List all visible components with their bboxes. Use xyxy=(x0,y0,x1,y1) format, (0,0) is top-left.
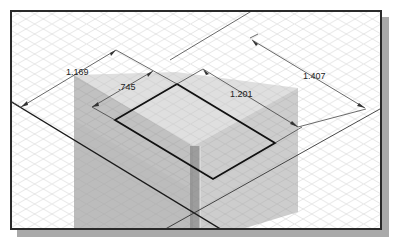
work-planes xyxy=(74,72,298,230)
axis-edge xyxy=(190,146,200,230)
graphics-viewport[interactable]: 1.169 .745 1.201 1.407 xyxy=(10,10,382,230)
dimension-label: 1.169 xyxy=(66,67,89,77)
dimension-label: 1.201 xyxy=(230,89,253,99)
dimension-label: 1.407 xyxy=(303,71,326,81)
dimension-label: .745 xyxy=(118,82,136,92)
